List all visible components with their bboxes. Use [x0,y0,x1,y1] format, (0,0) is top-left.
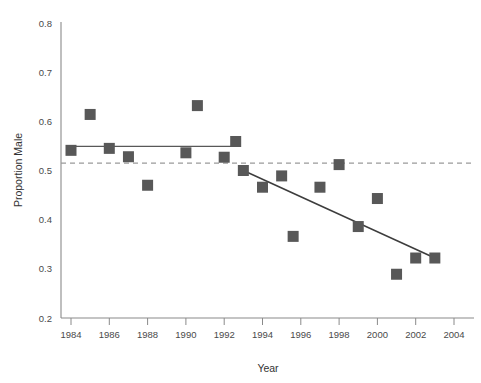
y-tick-label: 0.6 [39,116,52,127]
x-tick-label: 1988 [137,329,158,340]
x-tick-label: 1984 [60,329,81,340]
x-tick-label: 1998 [329,329,350,340]
x-tick-label: 2000 [367,329,388,340]
x-tick-label: 2002 [405,329,426,340]
x-tick-label: 1994 [252,329,273,340]
data-point-marker [142,180,153,191]
y-tick-label: 0.7 [39,67,52,78]
y-axis-tick-group: 0.20.30.40.50.60.70.8 [39,18,52,324]
data-point-marker [238,165,249,176]
x-axis-title: Year [257,362,279,374]
data-point-marker [123,151,134,162]
y-axis-title: Proportion Male [12,133,24,207]
scatter-plot: 0.20.30.40.50.60.70.8 198419861988199019… [0,0,481,383]
y-tick-label: 0.4 [39,214,52,225]
data-point-marker [192,100,203,111]
data-point-group [66,100,441,280]
y-tick-label: 0.3 [39,263,52,274]
declining-trend-line [243,171,435,259]
data-point-marker [288,231,299,242]
data-point-marker [276,170,287,181]
data-point-marker [230,136,241,147]
x-tick-label: 1992 [214,329,235,340]
x-tick-label: 1986 [99,329,120,340]
data-point-marker [257,182,268,193]
x-tick-label: 1990 [175,329,196,340]
data-point-marker [85,109,96,120]
data-point-marker [66,145,77,156]
data-point-marker [391,269,402,280]
x-axis-tick-group: 1984198619881990199219941996199820002002… [60,318,464,340]
data-point-marker [429,253,440,264]
data-point-marker [314,182,325,193]
data-point-marker [334,159,345,170]
data-point-marker [104,143,115,154]
data-point-marker [219,152,230,163]
y-tick-label: 0.8 [39,18,52,29]
data-point-marker [372,193,383,204]
data-point-marker [410,253,421,264]
data-point-marker [180,147,191,158]
chart-figure: 0.20.30.40.50.60.70.8 198419861988199019… [0,0,481,383]
x-tick-label: 1996 [290,329,311,340]
x-tick-label: 2004 [443,329,464,340]
y-tick-label: 0.2 [39,313,52,324]
data-point-marker [353,221,364,232]
y-tick-label: 0.5 [39,165,52,176]
